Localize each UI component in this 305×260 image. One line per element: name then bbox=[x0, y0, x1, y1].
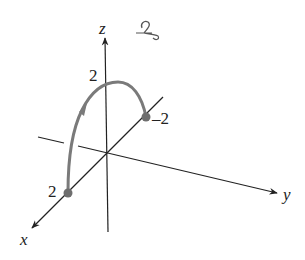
start-point bbox=[64, 189, 73, 198]
x-axis-label: x bbox=[20, 231, 28, 248]
handwritten-mark-icon bbox=[136, 21, 159, 39]
z-axis-label: z bbox=[99, 20, 106, 37]
diagram-canvas: z y x 2 –2 2 bbox=[0, 0, 305, 260]
y-axis-label: y bbox=[283, 186, 291, 203]
y-axis-back bbox=[38, 137, 64, 143]
x-tick-label: 2 bbox=[48, 183, 57, 200]
z-tick-label: 2 bbox=[89, 67, 98, 84]
end-point bbox=[142, 113, 151, 122]
z-axis bbox=[105, 38, 108, 232]
axes-and-curve bbox=[0, 0, 305, 260]
y-tick-label: –2 bbox=[152, 110, 169, 127]
